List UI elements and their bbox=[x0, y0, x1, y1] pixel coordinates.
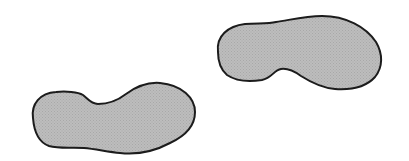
footprints-illustration bbox=[0, 0, 409, 161]
left-footprint-icon bbox=[33, 83, 195, 154]
footprints-svg bbox=[0, 0, 409, 161]
right-footprint-icon bbox=[218, 16, 381, 89]
